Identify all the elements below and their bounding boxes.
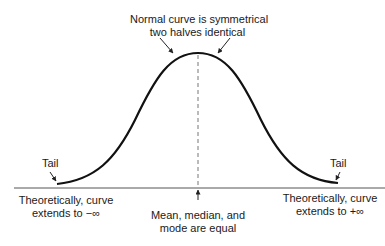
tail-arrow-left <box>50 172 56 181</box>
center-annotation-line1: Mean, median, and <box>148 209 248 222</box>
center-annotation-line2: mode are equal <box>148 222 248 235</box>
symmetry-annotation-line1: Normal curve is symmetrical <box>130 13 265 26</box>
symmetry-arrow-right <box>218 38 230 53</box>
tail-arrow-right <box>336 172 340 180</box>
left-extent-line1: Theoretically, curve <box>16 194 116 207</box>
left-extent-line2: extends to −∞ <box>16 207 116 220</box>
left-extent-annotation: Theoretically, curve extends to −∞ <box>16 194 116 220</box>
right-extent-annotation: Theoretically, curve extends to +∞ <box>280 192 380 218</box>
symmetry-annotation: Normal curve is symmetrical two halves i… <box>130 13 265 39</box>
symmetry-annotation-line2: two halves identical <box>130 26 265 39</box>
tail-left-label: Tail <box>42 157 59 170</box>
center-annotation: Mean, median, and mode are equal <box>148 209 248 235</box>
symmetry-arrow-left <box>160 38 173 53</box>
right-extent-line1: Theoretically, curve <box>280 192 380 205</box>
tail-right-label: Tail <box>330 157 347 170</box>
right-extent-line2: extends to +∞ <box>280 205 380 218</box>
